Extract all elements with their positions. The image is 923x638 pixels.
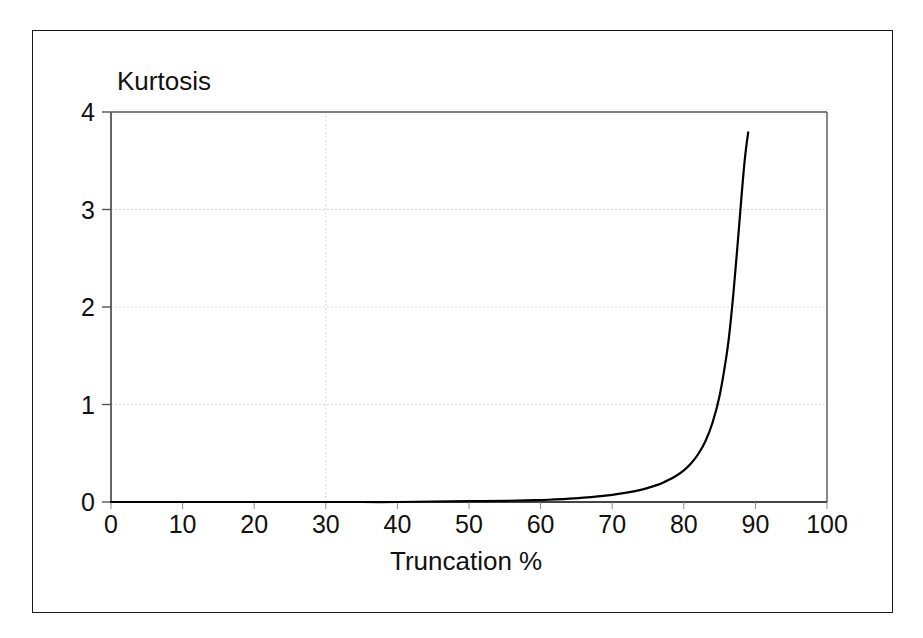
y-tick-label-0: 0 xyxy=(63,490,95,515)
kurtosis-curve xyxy=(111,132,748,502)
x-tick-label-70: 70 xyxy=(598,512,626,537)
x-tick-label-80: 80 xyxy=(670,512,698,537)
x-axis-title: Truncation % xyxy=(390,548,542,574)
y-axis-tick-marks xyxy=(102,112,111,502)
x-tick-label-90: 90 xyxy=(741,512,769,537)
x-tick-label-30: 30 xyxy=(312,512,340,537)
x-tick-label-60: 60 xyxy=(527,512,555,537)
x-tick-label-40: 40 xyxy=(383,512,411,537)
y-tick-label-4: 4 xyxy=(63,100,95,125)
y-axis-title: Kurtosis xyxy=(117,68,211,94)
x-tick-label-50: 50 xyxy=(455,512,483,537)
x-tick-label-0: 0 xyxy=(104,512,118,537)
y-tick-label-3: 3 xyxy=(63,197,95,222)
y-tick-label-1: 1 xyxy=(63,392,95,417)
x-tick-label-20: 20 xyxy=(240,512,268,537)
x-tick-label-100: 100 xyxy=(806,512,848,537)
horizontal-gridlines xyxy=(111,210,827,405)
x-tick-label-10: 10 xyxy=(169,512,197,537)
y-tick-label-2: 2 xyxy=(63,295,95,320)
